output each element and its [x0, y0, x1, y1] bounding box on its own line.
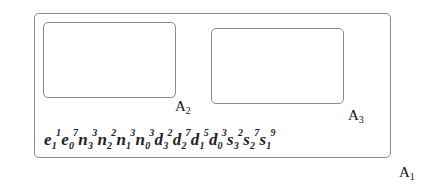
- formula-term: d15: [191, 128, 209, 151]
- region-a2-label: A2: [175, 99, 191, 116]
- label-subscript: 1: [410, 171, 415, 182]
- region-a2-box: [43, 22, 176, 98]
- label-subscript: 2: [186, 105, 191, 116]
- formula-term: e07: [61, 128, 78, 151]
- formula-term: n22: [97, 128, 116, 151]
- label-base: A: [399, 164, 410, 180]
- formula-term: n33: [78, 128, 97, 151]
- formula-term: e11: [44, 128, 61, 151]
- label-base: A: [348, 107, 359, 123]
- region-a1-label: A1: [399, 165, 415, 182]
- region-a3-label: A3: [348, 108, 364, 125]
- formula-term: n03: [136, 128, 155, 151]
- formula-term: s32: [227, 128, 243, 151]
- formula-term: n13: [116, 128, 135, 151]
- formula-term: s27: [243, 128, 259, 151]
- region-a3-box: [211, 28, 344, 104]
- formula-term: d27: [173, 128, 191, 151]
- formula-term: d03: [209, 128, 227, 151]
- formula-term: d32: [155, 128, 173, 151]
- formula-term: s19: [259, 128, 275, 151]
- formula-expression: e11e07n33n22n13n03d32d27d15d03s32s27s19: [44, 128, 276, 151]
- label-base: A: [175, 98, 186, 114]
- label-subscript: 3: [359, 114, 364, 125]
